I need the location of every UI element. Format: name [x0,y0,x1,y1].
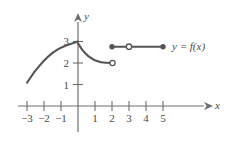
x-tick-label-neg2: −2 [36,113,52,124]
closed-dot-segment-right [160,44,165,49]
x-tick-label-neg1: −1 [53,113,69,124]
x-axis-arrowhead [204,102,213,110]
curve-increasing-branch [27,42,78,83]
x-tick-label-neg3: −3 [19,113,35,124]
curve-decreasing-branch [78,43,112,63]
y-tick-label-3: 3 [57,36,69,47]
open-circle-endpoint-decreasing [110,60,115,65]
open-circle-segment-mid [126,44,131,49]
function-graph-figure: −3 −2 −1 1 2 3 4 5 1 2 3 x y y = f(x) [0,0,227,145]
x-axis-label: x [215,100,220,111]
y-axis-label: y [84,11,89,22]
x-tick-label-2: 2 [105,113,119,124]
closed-dot-segment-left [109,44,114,49]
x-tick-label-4: 4 [139,113,153,124]
x-tick-label-5: 5 [156,113,170,124]
function-label: y = f(x) [172,41,205,52]
x-tick-label-3: 3 [122,113,136,124]
y-axis-arrowhead [74,13,82,22]
y-tick-label-2: 2 [57,58,69,69]
y-tick-label-1: 1 [57,80,69,91]
x-tick-label-1: 1 [88,113,102,124]
